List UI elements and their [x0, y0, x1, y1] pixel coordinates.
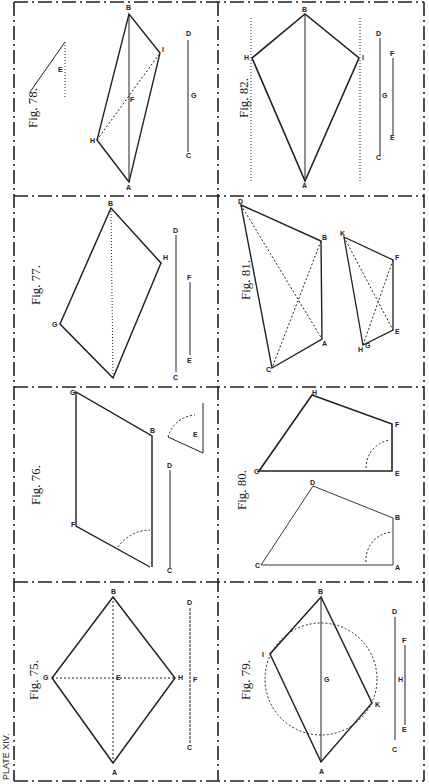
svg-text:A: A [322, 340, 327, 347]
svg-text:B: B [111, 588, 116, 595]
figure-label: Fig. 82. [236, 78, 251, 118]
svg-text:C: C [173, 374, 178, 381]
figure-81: Fig. 81. DBA CKF EHG [238, 198, 400, 373]
svg-text:B: B [395, 514, 400, 521]
svg-text:F: F [187, 274, 192, 281]
figure-label: Fig. 81. [238, 260, 253, 300]
svg-text:F: F [390, 50, 395, 57]
svg-text:H: H [398, 676, 403, 683]
svg-text:F: F [193, 676, 198, 683]
svg-text:E: E [390, 134, 395, 141]
svg-text:F: F [395, 421, 400, 428]
svg-text:C: C [186, 152, 191, 159]
svg-text:A: A [126, 184, 131, 191]
svg-text:D: D [238, 198, 243, 205]
geometry-plate: PLATE XIV. Fig. 75. ABG EHC DF Fig. 79. … [0, 0, 429, 784]
svg-text:G: G [52, 321, 58, 328]
svg-text:H: H [163, 254, 168, 261]
svg-text:C: C [187, 744, 192, 751]
svg-text:H: H [358, 346, 363, 353]
svg-text:F: F [395, 254, 400, 261]
figure-label: Fig. 77. [28, 265, 43, 305]
svg-text:I: I [162, 46, 164, 53]
svg-text:E: E [58, 66, 63, 73]
svg-text:F: F [130, 96, 135, 103]
figure-77: Fig. 77. GBH CDEF [28, 200, 192, 381]
figure-76: Fig. 76. GFB ECD [28, 389, 203, 574]
svg-text:C: C [255, 562, 260, 569]
svg-text:G: G [70, 389, 76, 396]
svg-text:D: D [376, 30, 381, 37]
figure-79: Fig. 79. ABI KGC DHEF [238, 588, 407, 775]
svg-text:C: C [392, 746, 397, 753]
svg-text:A: A [395, 564, 400, 571]
svg-text:G: G [254, 468, 260, 475]
figure-78: Fig. 78. ABH IFE CDG [25, 4, 197, 191]
svg-text:E: E [187, 357, 192, 364]
svg-text:A: A [112, 769, 117, 776]
figure-label: Fig. 75. [26, 660, 41, 700]
svg-text:E: E [116, 674, 121, 681]
svg-text:F: F [402, 637, 407, 644]
svg-text:H: H [244, 54, 249, 61]
svg-text:C: C [167, 567, 172, 574]
svg-text:I: I [262, 651, 264, 658]
svg-text:D: D [167, 462, 172, 469]
svg-text:D: D [186, 30, 191, 37]
svg-text:G: G [382, 92, 388, 99]
svg-text:E: E [395, 470, 400, 477]
svg-text:K: K [375, 701, 380, 708]
figure-82: Fig. 82. ABH ICD GEF [236, 6, 395, 189]
svg-text:B: B [126, 4, 131, 11]
svg-text:E: E [402, 726, 407, 733]
svg-text:E: E [395, 328, 400, 335]
svg-text:D: D [392, 608, 397, 615]
svg-text:C: C [266, 366, 271, 373]
plate-title: PLATE XIV. [1, 733, 11, 780]
svg-text:H: H [178, 674, 183, 681]
figure-label: Fig. 76. [28, 465, 43, 505]
figure-label: Fig. 80. [234, 470, 249, 510]
svg-text:B: B [108, 200, 113, 207]
svg-text:K: K [340, 230, 345, 237]
figure-75: Fig. 75. ABG EHC DF [26, 588, 198, 776]
svg-text:G: G [324, 676, 330, 683]
svg-text:B: B [318, 588, 323, 595]
svg-text:A: A [302, 182, 307, 189]
svg-text:H: H [90, 137, 95, 144]
svg-text:I: I [362, 54, 364, 61]
svg-text:D: D [310, 479, 315, 486]
figure-label: Fig. 79. [238, 660, 253, 700]
svg-text:D: D [173, 227, 178, 234]
svg-text:F: F [71, 521, 76, 528]
svg-text:G: G [43, 674, 49, 681]
svg-text:B: B [302, 6, 307, 13]
figure-80: Fig. 80. GHF ECD BA [234, 389, 400, 571]
svg-text:D: D [187, 599, 192, 606]
figure-label: Fig. 78. [25, 88, 40, 128]
svg-text:B: B [322, 234, 327, 241]
svg-text:A: A [319, 768, 324, 775]
svg-text:B: B [150, 427, 155, 434]
svg-text:G: G [191, 92, 197, 99]
svg-text:H: H [312, 389, 317, 396]
svg-text:C: C [376, 154, 381, 161]
svg-text:E: E [193, 431, 198, 438]
svg-text:G: G [365, 342, 371, 349]
